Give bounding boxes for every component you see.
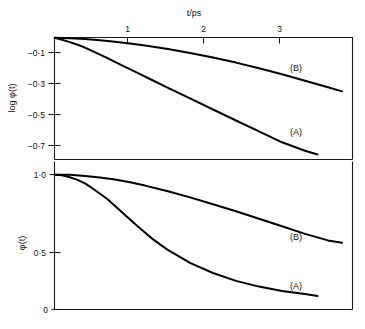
x-axis-title: t/ps (187, 8, 202, 18)
chart-svg: 1 2 3 t/ps −0·1 −0·3 −0·5 −0·7 log φ(t) … (0, 0, 365, 329)
y-ticklabel-minus05: −0·5 (28, 110, 46, 120)
lower-curve-A (55, 175, 318, 296)
y-ticklabel-minus03: −0·3 (28, 79, 46, 89)
upper-y-axis-title: log φ(t) (7, 84, 17, 113)
lower-panel: 1·0 0·5 0 φ(t) (B) (A) (17, 162, 353, 315)
upper-curve-A (55, 38, 318, 155)
lower-curve-label-B: (B) (290, 232, 302, 242)
upper-curve-label-B: (B) (290, 63, 302, 73)
upper-x-ticks (128, 38, 280, 44)
x-ticklabel-3: 3 (277, 24, 282, 34)
upper-panel: 1 2 3 t/ps −0·1 −0·3 −0·5 −0·7 log φ(t) … (7, 8, 353, 160)
x-ticklabel-2: 2 (201, 24, 206, 34)
x-ticklabel-1: 1 (125, 24, 130, 34)
upper-curve-label-A: (A) (290, 127, 302, 137)
y-ticklabel-minus07: −0·7 (28, 141, 46, 151)
lower-y-axis-title: φ(t) (17, 236, 27, 250)
y-ticklabel-0p5: 0·5 (34, 248, 47, 258)
y-ticklabel-1p0: 1·0 (34, 170, 47, 180)
figure-canvas: 1 2 3 t/ps −0·1 −0·3 −0·5 −0·7 log φ(t) … (0, 0, 365, 329)
y-ticklabel-minus01: −0·1 (28, 48, 46, 58)
lower-curve-label-A: (A) (290, 281, 302, 291)
y-ticklabel-0: 0 (43, 305, 48, 315)
